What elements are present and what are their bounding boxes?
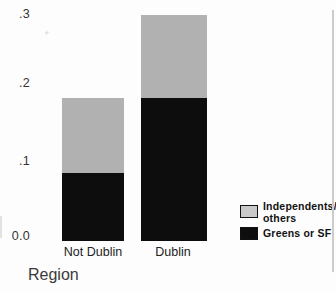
category-label-dublin: Dublin	[155, 245, 190, 259]
segment-greens-or-sf	[141, 98, 207, 241]
bar-not-dublin	[62, 98, 124, 241]
bar-dublin	[141, 15, 207, 241]
segment-independents-others	[62, 98, 124, 173]
y-tick-label-3: .3	[0, 6, 30, 22]
x-axis-title: Region	[28, 266, 79, 284]
segment-independents-others	[141, 15, 207, 98]
segment-greens-or-sf	[62, 173, 124, 241]
category-label-not-dublin: Not Dublin	[64, 245, 122, 259]
y-tick-label-1: .1	[0, 153, 30, 169]
legend-label-independents: Independents/	[263, 201, 336, 212]
scan-edge-smudge	[0, 216, 2, 238]
legend-label-others: others	[263, 213, 296, 224]
scan-page-edge-line	[332, 10, 334, 272]
y-tick-label-0: 0.0	[0, 228, 30, 244]
stacked-bar-chart: 0.0 .1 .2 .3 Not Dublin Dublin Region In…	[0, 0, 336, 292]
legend-swatch-independents-others	[240, 205, 258, 218]
y-tick-label-2: .2	[0, 75, 30, 91]
legend-label-greens-or-sf: Greens or SF	[263, 228, 331, 239]
scan-artifact-mark: +	[44, 30, 50, 36]
legend-swatch-greens-or-sf	[240, 227, 258, 240]
